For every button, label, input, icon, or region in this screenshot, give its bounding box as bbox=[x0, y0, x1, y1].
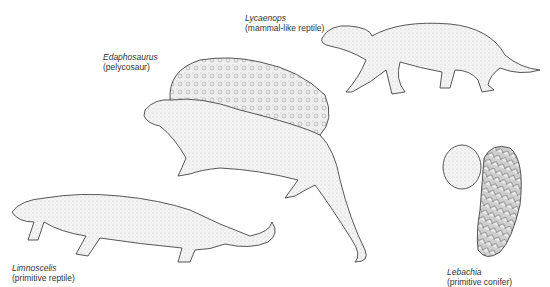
lycaenops-drawing bbox=[322, 23, 540, 94]
species-description: (pelycosaur) bbox=[103, 62, 158, 72]
species-description: (mammal-like reptile) bbox=[245, 23, 324, 33]
species-name: Lebachia bbox=[447, 267, 512, 277]
species-name: Edaphosaurus bbox=[103, 52, 158, 62]
label-lycaenops: Lycaenops (mammal-like reptile) bbox=[245, 13, 324, 33]
label-limnoscelis: Limnoscelis (primitive reptile) bbox=[12, 263, 75, 283]
limnoscelis-drawing bbox=[12, 194, 275, 262]
lebachia-drawing bbox=[443, 145, 521, 257]
label-edaphosaurus: Edaphosaurus (pelycosaur) bbox=[103, 52, 158, 72]
illustration-canvas bbox=[0, 0, 550, 287]
species-name: Lycaenops bbox=[245, 13, 324, 23]
species-description: (primitive conifer) bbox=[447, 277, 512, 287]
species-description: (primitive reptile) bbox=[12, 273, 75, 283]
species-name: Limnoscelis bbox=[12, 263, 75, 273]
label-lebachia: Lebachia (primitive conifer) bbox=[447, 267, 512, 287]
